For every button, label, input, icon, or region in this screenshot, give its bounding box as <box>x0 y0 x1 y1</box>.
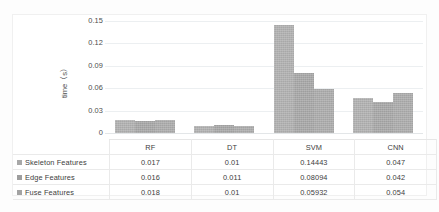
table-row: Skeleton Features0.0170.010.144430.047 <box>13 155 437 170</box>
table-cell: 0.042 <box>355 170 437 185</box>
table-cell: 0.05932 <box>273 185 355 200</box>
table-cell: 0.01 <box>191 155 273 170</box>
chart-frame: 00.030.060.090.120.15 time（s） RFDTSVMCNN… <box>12 14 427 196</box>
category-header-dt: DT <box>191 140 273 155</box>
bar-cnn-series-2 <box>393 93 413 133</box>
data-table-body: RFDTSVMCNNSkeleton Features0.0170.010.14… <box>13 140 437 200</box>
table-cell: 0.018 <box>110 185 192 200</box>
legend-label: Fuse Features <box>25 188 74 197</box>
table-cell: 0.016 <box>110 170 192 185</box>
plot-region: 00.030.060.090.120.15 time（s） <box>13 15 428 139</box>
table-row: Fuse Features0.0180.010.059320.054 <box>13 185 437 200</box>
y-axis-tick-label: 0.15 <box>69 17 103 25</box>
bar-rf-series-2 <box>155 120 175 133</box>
table-cell: 0.08094 <box>273 170 355 185</box>
bar-dt-series-0 <box>194 126 214 133</box>
bar-group-rf <box>105 21 185 133</box>
y-axis-tick-label: 0 <box>69 129 103 137</box>
category-header-cnn: CNN <box>355 140 437 155</box>
table-cell: 0.01 <box>191 185 273 200</box>
chart-figure: 00.030.060.090.120.15 time（s） RFDTSVMCNN… <box>0 0 439 212</box>
bar-svm-series-0 <box>274 25 294 133</box>
bar-dt-series-1 <box>214 125 234 133</box>
legend-label: Skeleton Features <box>25 158 87 167</box>
table-cell: 0.017 <box>110 155 192 170</box>
legend-entry-0: Skeleton Features <box>13 155 110 170</box>
bar-group-svm <box>264 21 344 133</box>
y-axis-tick-label: 0.03 <box>69 107 103 115</box>
bar-cluster <box>274 21 334 133</box>
legend-entry-1: Edge Features <box>13 170 110 185</box>
bar-rf-series-0 <box>115 120 135 133</box>
bar-group-cnn <box>344 21 424 133</box>
table-cell: 0.047 <box>355 155 437 170</box>
table-cell: 0.011 <box>191 170 273 185</box>
bar-rf-series-1 <box>135 121 155 133</box>
category-header-rf: RF <box>110 140 192 155</box>
legend-swatch-icon <box>17 190 22 195</box>
legend-label: Edge Features <box>25 173 75 182</box>
table-corner-cell <box>13 140 110 155</box>
bar-svm-series-2 <box>314 89 334 133</box>
table-cell: 0.14443 <box>273 155 355 170</box>
plot-area <box>105 21 423 133</box>
bar-cluster <box>353 21 413 133</box>
legend-entry-2: Fuse Features <box>13 185 110 200</box>
category-header-svm: SVM <box>273 140 355 155</box>
bar-svm-series-1 <box>294 73 314 133</box>
y-axis-title: time（s） <box>41 59 85 103</box>
bar-cluster <box>115 21 175 133</box>
y-axis-tick-label: 0.12 <box>69 39 103 47</box>
legend-swatch-icon <box>17 160 22 165</box>
gridline <box>105 133 423 134</box>
table-header-row: RFDTSVMCNN <box>13 140 437 155</box>
data-table: RFDTSVMCNNSkeleton Features0.0170.010.14… <box>13 139 437 200</box>
bar-group-dt <box>185 21 265 133</box>
bar-cnn-series-0 <box>353 98 373 133</box>
table-cell: 0.054 <box>355 185 437 200</box>
bar-dt-series-2 <box>234 126 254 133</box>
bar-cnn-series-1 <box>373 102 393 133</box>
legend-swatch-icon <box>17 175 22 180</box>
bar-cluster <box>194 21 254 133</box>
table-row: Edge Features0.0160.0110.080940.042 <box>13 170 437 185</box>
